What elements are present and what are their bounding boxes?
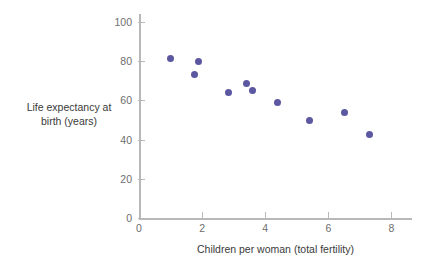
x-tick-label: 8 (389, 223, 395, 234)
y-axis-title: Life expectancy at birth (years) (14, 100, 124, 128)
data-point (225, 89, 232, 96)
x-tick-label: 4 (262, 223, 268, 234)
y-tick-mark (138, 61, 145, 62)
data-point (167, 55, 174, 62)
y-tick-mark (138, 179, 145, 180)
x-tick-mark (202, 212, 203, 219)
data-point (195, 58, 202, 65)
x-tick-mark (391, 212, 392, 219)
y-tick-mark (138, 218, 145, 219)
y-tick-mark (138, 100, 145, 101)
y-axis-title-line-2: birth (years) (14, 114, 124, 128)
data-point (366, 131, 373, 138)
scatter-plot-figure: 020406080100 02468 Life expectancy at bi… (0, 0, 431, 270)
data-point (274, 99, 281, 106)
y-axis-line (139, 14, 141, 220)
x-axis-title: Children per woman (total fertility) (139, 243, 412, 256)
y-tick-mark (138, 140, 145, 141)
data-point (249, 87, 256, 94)
data-point (243, 80, 250, 87)
data-point (191, 71, 198, 78)
data-point (306, 117, 313, 124)
data-point (341, 109, 348, 116)
y-tick-label: 0 (126, 213, 132, 224)
x-tick-label: 0 (136, 223, 142, 234)
x-tick-mark (265, 212, 266, 219)
y-axis-title-line-1: Life expectancy at (14, 100, 124, 114)
x-tick-label: 6 (325, 223, 331, 234)
plot-area: 020406080100 02468 (139, 14, 412, 219)
x-tick-label: 2 (199, 223, 205, 234)
x-axis-line (139, 218, 412, 220)
y-tick-label: 20 (120, 174, 132, 185)
x-tick-mark (328, 212, 329, 219)
y-tick-mark (138, 22, 145, 23)
y-tick-label: 100 (114, 17, 132, 28)
y-tick-label: 80 (120, 56, 132, 67)
y-tick-label: 40 (120, 134, 132, 145)
